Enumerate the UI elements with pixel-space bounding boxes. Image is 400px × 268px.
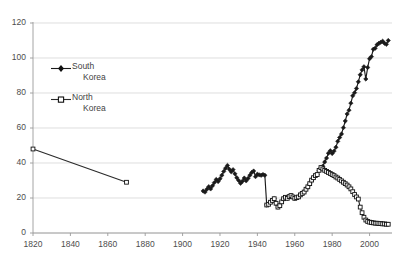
y-axis-tick-label: 20 bbox=[0, 192, 26, 202]
data-point-marker-filled-diamond bbox=[354, 86, 358, 90]
x-axis-tick-label: 1980 bbox=[312, 239, 352, 249]
data-point-marker-filled-diamond bbox=[365, 65, 369, 69]
chart-plot-area bbox=[0, 0, 400, 268]
data-point-marker-filled-diamond bbox=[322, 160, 326, 164]
series-line-2 bbox=[33, 149, 126, 182]
data-point-marker-filled-diamond bbox=[233, 172, 237, 176]
x-axis-tick-label: 1860 bbox=[88, 239, 128, 249]
data-point-marker-filled-diamond bbox=[336, 139, 340, 143]
x-axis-tick-label: 1920 bbox=[200, 239, 240, 249]
y-axis-tick-label: 100 bbox=[0, 52, 26, 62]
chart-container: South Korea North Korea 0204060801001201… bbox=[0, 0, 400, 268]
x-axis-tick-label: 1940 bbox=[237, 239, 277, 249]
data-point-marker-filled-diamond bbox=[358, 73, 362, 77]
x-axis-tick-label: 1840 bbox=[50, 239, 90, 249]
x-axis-tick-label: 1900 bbox=[163, 239, 203, 249]
x-axis-tick-label: 1960 bbox=[275, 239, 315, 249]
data-point-marker-open-square bbox=[31, 147, 35, 151]
data-point-marker-open-square bbox=[274, 201, 278, 205]
data-point-marker-filled-diamond bbox=[341, 125, 345, 129]
x-axis-tick-label: 1880 bbox=[125, 239, 165, 249]
y-axis-tick-label: 60 bbox=[0, 122, 26, 132]
y-axis-tick-label: 80 bbox=[0, 87, 26, 97]
data-point-marker-filled-diamond bbox=[347, 108, 351, 112]
y-axis-tick-label: 0 bbox=[0, 227, 26, 237]
data-point-marker-open-square bbox=[315, 173, 319, 177]
data-point-marker-filled-diamond bbox=[349, 101, 353, 105]
data-point-marker-open-square bbox=[278, 204, 282, 208]
data-point-marker-open-square bbox=[272, 197, 276, 201]
data-point-marker-filled-diamond bbox=[334, 145, 338, 149]
legend-marker-filled-diamond-icon bbox=[50, 63, 72, 74]
data-point-marker-filled-diamond bbox=[386, 38, 390, 42]
y-axis-tick-label: 120 bbox=[0, 17, 26, 27]
data-point-marker-open-square bbox=[358, 205, 362, 209]
data-point-marker-open-square bbox=[356, 197, 360, 201]
data-point-marker-filled-diamond bbox=[364, 77, 368, 81]
legend-label-south-korea-line1: South bbox=[72, 61, 94, 72]
legend-label-north-korea-line2: Korea bbox=[83, 103, 106, 114]
data-point-marker-open-square bbox=[386, 222, 390, 226]
x-axis-tick-label: 1820 bbox=[13, 239, 53, 249]
y-axis-tick-label: 40 bbox=[0, 157, 26, 167]
data-point-marker-open-square bbox=[360, 211, 364, 215]
data-point-marker-filled-diamond bbox=[343, 119, 347, 123]
data-point-marker-open-square bbox=[125, 180, 129, 184]
legend-marker-open-square-icon bbox=[50, 94, 72, 105]
data-point-marker-filled-diamond bbox=[356, 80, 360, 84]
series-line-1 bbox=[203, 41, 388, 208]
data-point-marker-filled-diamond bbox=[345, 112, 349, 116]
x-axis-tick-label: 2000 bbox=[350, 239, 390, 249]
legend-label-south-korea-line2: Korea bbox=[83, 72, 106, 83]
legend-label-north-korea-line1: North bbox=[72, 92, 93, 103]
data-point-marker-filled-diamond bbox=[324, 156, 328, 160]
